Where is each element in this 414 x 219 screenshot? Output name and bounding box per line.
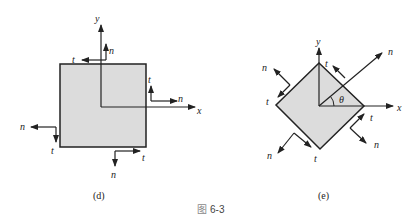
lower-right-t-label: t [370,112,373,123]
bottom-face-arrows: t n [111,151,145,180]
panel-e: y x n θ t n t t n n t [262,36,402,202]
left-face-arrows: n t [20,121,56,156]
lower-left-n-arrow [278,133,294,153]
y-axis-label: y [315,36,321,47]
caption-number: 6-3 [210,204,225,215]
x-axis-label: x [196,105,202,116]
x-axis-label: x [396,102,402,113]
left-t-label: t [51,145,54,156]
y-axis-label: y [94,13,100,24]
theta-label: θ [339,94,344,105]
caption-glyph: 图 [197,204,207,215]
bottom-n-label: n [111,169,116,180]
top-t-label: t [72,54,75,65]
top-n-label: n [109,45,114,56]
figure-canvas: y x n t t n n t t n (d) [0,0,414,219]
panel-d-label: (d) [93,190,105,202]
right-face-arrows: t n [148,74,183,104]
panel-d: y x n t t n n t t n (d) [20,13,202,202]
lower-right-n-arrow [350,128,366,143]
upper-left-n-label: n [262,62,267,73]
stress-element-square [60,64,146,147]
lower-left-t-label: t [314,153,317,164]
lower-right-face-arrows: t n [350,112,379,150]
lower-left-n-label: n [267,150,272,161]
panel-e-label: (e) [318,190,329,202]
lower-right-n-label: n [374,139,379,150]
upper-left-n-arrow [274,69,290,85]
upper-right-t-arrow [333,66,345,78]
top-face-arrows: n t [72,44,114,65]
left-n-label: n [20,121,25,132]
right-n-label: n [178,93,183,104]
bottom-t-label: t [142,152,145,163]
upper-left-t-label: t [266,96,269,107]
right-t-label: t [148,74,151,85]
upper-right-t-label: t [325,58,328,69]
rotated-n-label: n [388,46,393,57]
figure-caption: 图 6-3 [197,204,225,215]
